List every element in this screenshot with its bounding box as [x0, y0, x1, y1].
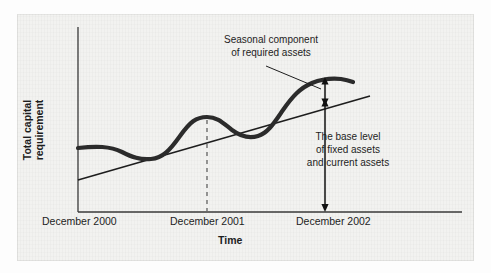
- base-level-annotation: The base level of fixed assets and curre…: [278, 131, 418, 169]
- figure-container: Total capital requirement December 2000 …: [0, 0, 491, 273]
- base-level-annotation-line-2: of fixed assets: [278, 144, 418, 157]
- seasonal-annotation-leader-line: [266, 66, 321, 89]
- seasonal-annotation-line-2: of required assets: [196, 47, 346, 60]
- seasonal-annotation-line-1: Seasonal component: [196, 34, 346, 47]
- x-tick-december-2002: December 2002: [296, 215, 371, 228]
- seasonal-component-annotation: Seasonal component of required assets: [196, 34, 346, 60]
- y-axis-title: Total capital requirement: [21, 70, 45, 190]
- base-level-annotation-line-1: The base level: [278, 131, 418, 144]
- x-tick-december-2000: December 2000: [42, 215, 117, 228]
- base-level-annotation-line-3: and current assets: [278, 157, 418, 170]
- x-axis-title: Time: [218, 234, 242, 247]
- x-tick-december-2001: December 2001: [170, 215, 245, 228]
